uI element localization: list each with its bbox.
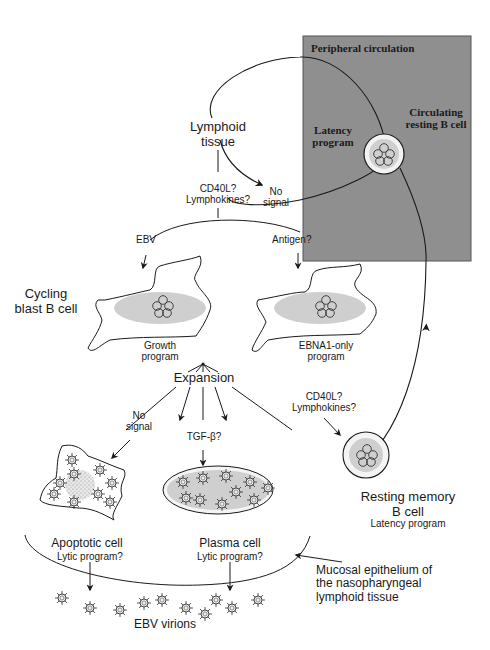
mucosal-epithelium-label: Mucosal epithelium of the nasopharyngeal… bbox=[316, 564, 432, 604]
blast-b-cell-line: blast B cell bbox=[14, 302, 78, 317]
apoptotic-lytic-label: Lytic program? bbox=[50, 551, 130, 562]
ebna1-program-line: program bbox=[290, 351, 362, 362]
growth-program-label: Growth program bbox=[128, 340, 192, 362]
lymphoid-tissue-label: Lymphoid tissue bbox=[186, 120, 250, 149]
latency-program-label: Latency program bbox=[305, 124, 361, 149]
epithelium-line2: the nasopharyngeal bbox=[316, 577, 432, 590]
circulating-resting-b-cell-label: Circulating resting B cell bbox=[405, 106, 467, 131]
ebna1-line: EBNA1-only bbox=[290, 340, 362, 351]
cycling-blast-b-cell-label: Cycling blast B cell bbox=[14, 287, 78, 316]
epithelium-line1: Mucosal epithelium of bbox=[316, 564, 432, 577]
plasma-lytic-label: Lytic program? bbox=[190, 551, 270, 562]
cd40l-line-2: CD40L? bbox=[286, 391, 362, 402]
ebv-label: EBV bbox=[136, 234, 156, 245]
b-cell-line: B cell bbox=[350, 505, 466, 520]
apoptotic-cell-label: Apoptotic cell bbox=[42, 537, 132, 550]
signal-line-2: signal bbox=[122, 421, 156, 432]
expansion-label: Expansion bbox=[172, 371, 236, 386]
antigen-label: Antigen? bbox=[272, 234, 311, 245]
lymphoid-line1: Lymphoid bbox=[186, 120, 250, 135]
ebv-virions-label: EBV virions bbox=[120, 618, 210, 631]
cd40l-lymphokines-expansion-label: CD40L? Lymphokines? bbox=[286, 391, 362, 413]
growth-line: Growth bbox=[128, 340, 192, 351]
no-signal-top-label: No signal bbox=[258, 186, 294, 208]
peripheral-circulation-title: Peripheral circulation bbox=[311, 42, 414, 54]
resting-memory-b-cell-label: Resting memory B cell bbox=[350, 490, 466, 519]
no-signal-expansion-label: No signal bbox=[122, 410, 156, 432]
ebna1-only-program-label: EBNA1-only program bbox=[290, 340, 362, 362]
cd40l-line: CD40L? bbox=[180, 183, 256, 194]
tgf-beta-label: TGF-β? bbox=[184, 431, 224, 442]
cycling-line: Cycling bbox=[14, 287, 78, 302]
program-line: program bbox=[128, 351, 192, 362]
epithelium-line3: lymphoid tissue bbox=[316, 591, 432, 604]
lymphoid-line2: tissue bbox=[186, 135, 250, 150]
lymphokines-line-2: Lymphokines? bbox=[286, 402, 362, 413]
lymphokines-line: Lymphokines? bbox=[180, 194, 256, 205]
signal-line: signal bbox=[258, 197, 294, 208]
no-line: No bbox=[258, 186, 294, 197]
no-line-2: No bbox=[122, 410, 156, 421]
memory-latency-program-label: Latency program bbox=[352, 518, 464, 529]
resting-memory-line: Resting memory bbox=[350, 490, 466, 505]
plasma-cell-label: Plasma cell bbox=[190, 537, 270, 550]
cd40l-lymphokines-label: CD40L? Lymphokines? bbox=[180, 183, 256, 205]
